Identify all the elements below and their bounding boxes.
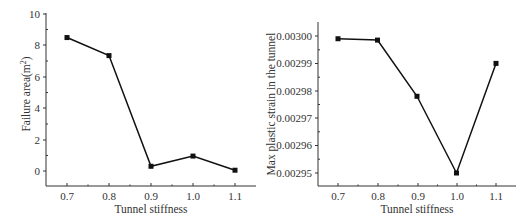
data-point-marker bbox=[107, 53, 112, 58]
max-plastic-strain-chart: 0.00300 0.00299 0.00298 0.00297 0.00296 … bbox=[265, 22, 516, 215]
y-tick-label: 0.00295 bbox=[276, 167, 312, 179]
y-tick-label: 6 bbox=[35, 71, 41, 83]
y-tick-label: 0.00297 bbox=[276, 112, 312, 124]
x-tick-label: 0.7 bbox=[60, 190, 74, 202]
x-tick-label: 0.8 bbox=[371, 190, 385, 202]
x-axis-label: Tunnel stiffness bbox=[114, 203, 188, 215]
y-tick-label: 0.00299 bbox=[276, 57, 312, 69]
y-tick-label: 10 bbox=[29, 8, 41, 20]
data-line bbox=[67, 38, 235, 171]
data-point-marker bbox=[191, 154, 196, 159]
y-tick-label: 2 bbox=[35, 134, 41, 146]
y-tick-label: 4 bbox=[35, 102, 41, 114]
x-axis-label: Tunnel stiffness bbox=[380, 203, 454, 215]
data-point-marker bbox=[233, 168, 238, 173]
x-tick-label: 1.1 bbox=[489, 190, 503, 202]
y-axis-label: Max plastic strain in the tunnel bbox=[265, 33, 278, 176]
y-tick-label: 0 bbox=[35, 165, 41, 177]
x-tick-label: 1.0 bbox=[450, 190, 464, 202]
data-markers bbox=[65, 35, 238, 173]
data-line bbox=[338, 39, 496, 173]
data-point-marker bbox=[149, 164, 154, 169]
x-tick-label: 0.8 bbox=[102, 190, 116, 202]
data-markers bbox=[336, 36, 499, 175]
data-point-marker bbox=[454, 171, 459, 176]
data-point-marker bbox=[494, 61, 499, 66]
x-tick-labels: 0.7 0.8 0.9 1.0 1.1 bbox=[331, 190, 503, 202]
x-tick-label: 1.1 bbox=[228, 190, 242, 202]
figure: 10 8 6 4 2 0 0.7 0.8 0.9 1.0 1.1 Tunnel … bbox=[0, 0, 532, 221]
data-point-marker bbox=[336, 36, 341, 41]
y-tick-label: 8 bbox=[35, 39, 41, 51]
y-tick-labels: 0.00300 0.00299 0.00298 0.00297 0.00296 … bbox=[276, 30, 312, 179]
x-tick-label: 0.7 bbox=[331, 190, 345, 202]
x-tick-label: 1.0 bbox=[186, 190, 200, 202]
x-tick-labels: 0.7 0.8 0.9 1.0 1.1 bbox=[60, 190, 242, 202]
y-tick-label: 0.00296 bbox=[276, 139, 312, 151]
x-tick-label: 0.9 bbox=[411, 190, 425, 202]
y-tick-label: 0.00300 bbox=[276, 30, 312, 42]
y-tick-label: 0.00298 bbox=[276, 85, 312, 97]
data-point-marker bbox=[65, 35, 70, 40]
x-tick-label: 0.9 bbox=[144, 190, 158, 202]
data-point-marker bbox=[415, 94, 420, 99]
failure-area-chart: 10 8 6 4 2 0 0.7 0.8 0.9 1.0 1.1 Tunnel … bbox=[19, 8, 257, 216]
y-axis-label: Failure area(m2) bbox=[19, 56, 34, 131]
data-point-marker bbox=[375, 38, 380, 43]
